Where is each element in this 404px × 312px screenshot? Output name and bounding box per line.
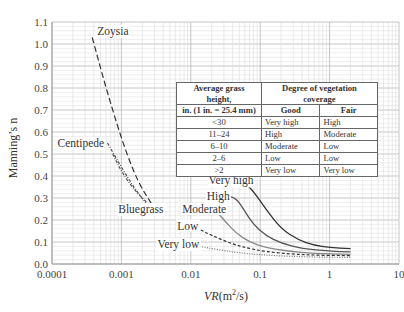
header-grass-height-unit: in. (1 in. = 25.4 mm) [177,105,262,117]
table-row: <30 Very high High [177,117,378,129]
x-tick-label: 0.001 [109,268,134,280]
label-zoysia: Zoysia [97,25,128,38]
cell-fair: Low [320,153,378,165]
cell-fair: Moderate [320,129,378,141]
y-tick-label: 1.0 [34,38,48,50]
y-tick-label: 0.9 [34,60,48,72]
y-tick-label: 0.6 [34,126,48,138]
label-bluegrass: Bluegrass [118,203,164,216]
header-fair: Fair [320,105,378,117]
x-tick-label: 1 [327,268,333,280]
y-tick-label: 0.8 [34,82,48,94]
cell-good: Low [261,153,320,165]
cell-height: 11–24 [177,129,262,141]
cell-good: Moderate [261,141,320,153]
y-tick-label: 1.1 [34,16,48,28]
y-tick-label: 0.7 [34,104,48,116]
y-tick-label: 0.1 [34,236,48,248]
label-high: High [207,190,230,203]
y-tick-label: 0.4 [34,170,48,182]
label-moderate: Moderate [182,203,226,215]
x-tick-label: 0.0001 [37,268,67,280]
header-grass-height: Average grass height, [177,83,262,105]
y-axis-ticks: 0.00.10.20.30.40.50.60.70.80.91.01.1 [34,16,48,270]
cell-height: 6–10 [177,141,262,153]
x-axis-label: VR(m2/s) [204,288,248,303]
cell-good: Very high [261,117,320,129]
table-row: >2 Very low Very low [177,165,378,177]
label-low: Low [177,220,199,232]
cell-good: High [261,129,320,141]
cell-fair: High [320,117,378,129]
cell-height: <30 [177,117,262,129]
y-tick-label: 0.5 [34,148,48,160]
cell-height: >2 [177,165,262,177]
grass-height-legend-table: Average grass height, Degree of vegetati… [176,82,378,177]
cell-good: Very low [261,165,320,177]
table-row: 6–10 Moderate Low [177,141,378,153]
x-tick-label: 10 [394,268,404,280]
header-vegetation-coverage: Degree of vegetation coverage [261,83,377,105]
curve-centipede [108,143,150,207]
cell-fair: Low [320,141,378,153]
y-tick-label: 0.2 [34,214,48,226]
x-tick-label: 0.01 [181,268,200,280]
table-row: 11–24 High Moderate [177,129,378,141]
label-very-low: Very low [157,238,200,251]
y-tick-label: 0.3 [34,192,48,204]
cell-height: 2–6 [177,153,262,165]
x-tick-label: 0.1 [253,268,267,280]
label-centipede: Centipede [57,137,104,150]
cell-fair: Very low [320,165,378,177]
table-row: 2–6 Low Low [177,153,378,165]
x-axis-ticks: 0.00010.0010.010.1110 [37,268,404,280]
y-axis-label: Manning’s n [6,118,20,178]
header-good: Good [261,105,320,117]
